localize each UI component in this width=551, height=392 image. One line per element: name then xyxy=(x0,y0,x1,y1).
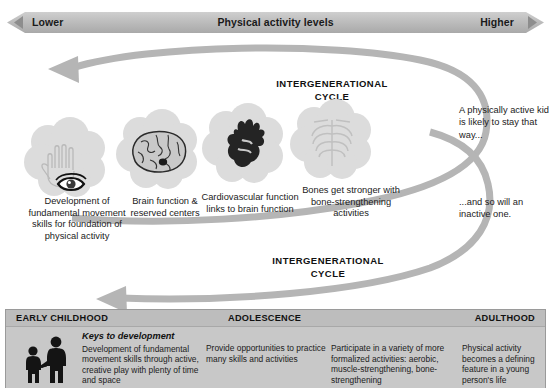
lifecycle-column-3: Participate in a variety of more formali… xyxy=(331,343,459,385)
organ-caption-1: Development of fundamental movement skil… xyxy=(18,196,136,242)
lifecycle-column-4: Physical activity becomes a defining fea… xyxy=(462,343,548,385)
stage-label-early-childhood: EARLY CHILDHOOD xyxy=(16,313,108,323)
stage-label-adulthood: ADULTHOOD xyxy=(475,313,535,323)
organ-caption-2: Brain function & reserved centers xyxy=(122,196,208,219)
infographic-root: Lower Physical activity levels Higher IN… xyxy=(0,0,551,392)
lifecycle-panel: EARLY CHILDHOOD ADOLESCENCE ADULTHOOD Ke… xyxy=(5,309,546,388)
lifecycle-stage-header: EARLY CHILDHOOD ADOLESCENCE ADULTHOOD xyxy=(6,310,545,327)
cloud-backdrop xyxy=(290,99,371,179)
note-inactive-kid: ...and so will an inactive one. xyxy=(459,196,551,221)
organ-icon-4 xyxy=(284,94,380,180)
lifecycle-column-1: Keys to development Development of funda… xyxy=(82,331,212,386)
lifecycle-column-1-text: Development of fundamental movement skil… xyxy=(82,344,199,386)
organ-caption-3: Cardiovascular function links to brain f… xyxy=(200,192,300,215)
stage-label-adolescence: ADOLESCENCE xyxy=(228,313,301,323)
organ-caption-4: Bones get stronger with bone-strengtheni… xyxy=(296,185,406,220)
organ-icon-row xyxy=(0,100,430,190)
banner-label-higher: Higher xyxy=(480,15,514,30)
activity-level-banner: Lower Physical activity levels Higher xyxy=(7,12,544,33)
organ-icon-1 xyxy=(18,114,114,200)
organ-icon-3 xyxy=(196,100,292,186)
banner-label-center: Physical activity levels xyxy=(7,15,544,30)
lower-cycle-arrowhead xyxy=(96,286,127,310)
cycle-label-bottom: INTERGENERATIONAL CYCLE xyxy=(254,255,402,280)
lifecycle-column-2: Provide opportunities to practice many s… xyxy=(206,343,328,364)
upper-cycle-arrowhead xyxy=(48,56,79,83)
children-silhouette-icon xyxy=(20,335,78,385)
brain-icon xyxy=(133,131,186,172)
organ-icon-2 xyxy=(110,106,206,192)
lifecycle-panel-body: Keys to development Development of funda… xyxy=(6,327,545,388)
keys-to-development-title: Keys to development xyxy=(82,331,212,342)
note-active-kid: A physically active kid is likely to sta… xyxy=(459,104,551,141)
